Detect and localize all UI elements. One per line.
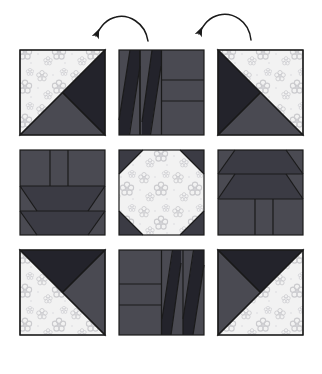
patch-rect-right xyxy=(68,150,105,186)
block-top-right[interactable] xyxy=(218,50,303,135)
block-middle-right[interactable] xyxy=(218,150,303,235)
block-center[interactable] xyxy=(119,150,204,235)
patch-rect-mid xyxy=(50,150,68,186)
block-bottom-left[interactable] xyxy=(20,250,105,335)
block-bottom-right[interactable] xyxy=(218,250,303,335)
block-middle-left[interactable] xyxy=(20,150,105,235)
block-top-center[interactable] xyxy=(119,50,204,135)
block-top-left[interactable] xyxy=(20,50,105,135)
patch-rect-2 xyxy=(162,80,204,101)
rotation-arrows-group xyxy=(96,14,251,41)
block-bottom-center[interactable] xyxy=(119,250,204,335)
patch-octagon-center xyxy=(119,150,204,235)
patch-rect-1 xyxy=(162,50,204,80)
quilt-assembly-svg xyxy=(0,0,322,374)
rotation-arrow-left-icon xyxy=(96,16,148,41)
quilt-diagram xyxy=(0,0,322,374)
patch-rect-3 xyxy=(162,101,204,135)
patch-rect-left xyxy=(20,150,50,186)
rotation-arrow-right-icon xyxy=(199,14,251,40)
